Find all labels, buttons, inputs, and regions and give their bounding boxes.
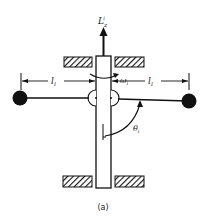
theta-label: θi (133, 124, 140, 134)
left-dimension-arrow-icon-2 (89, 79, 95, 83)
left-mass (13, 91, 28, 106)
right-rod (118, 99, 188, 101)
left-dimension-arrow-icon (22, 79, 28, 83)
dumbbell-rotor-diagram: Lzi ωi lI lI θi (a) (0, 0, 206, 222)
theta-arrowhead-icon (137, 100, 143, 107)
top-right-bearing (115, 57, 144, 67)
right-dimension-arrow-icon-2 (182, 79, 188, 83)
rotation-arrowhead-icon (113, 73, 119, 78)
top-left-bearing (64, 57, 92, 67)
angular-momentum-label: Lzi (97, 15, 108, 28)
figure-caption: (a) (97, 203, 108, 212)
bottom-left-bearing (63, 176, 92, 187)
left-hinge (88, 90, 96, 106)
right-mass (182, 94, 197, 109)
shaft (96, 56, 111, 188)
right-hinge (111, 90, 119, 106)
arrow-up-icon (100, 27, 108, 36)
bottom-right-bearing (115, 176, 144, 187)
right-dimension-arrow-icon (112, 79, 118, 83)
